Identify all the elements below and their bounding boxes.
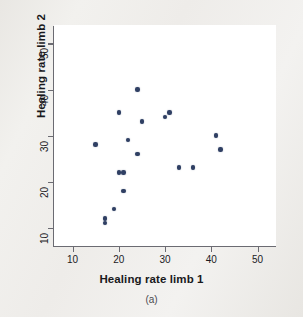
- data-point: [191, 165, 196, 170]
- data-point: [177, 165, 182, 170]
- data-point: [214, 133, 219, 138]
- y-tick-label-10: 10: [39, 227, 50, 249]
- data-point: [218, 147, 223, 152]
- data-point: [135, 87, 140, 92]
- plot-area: [54, 25, 276, 246]
- x-tick-30: [165, 247, 166, 252]
- x-tick-label-30: 30: [154, 254, 176, 265]
- x-tick-label-20: 20: [108, 254, 130, 265]
- x-tick-50: [258, 247, 259, 252]
- x-tick-40: [211, 247, 212, 252]
- x-tick-10: [73, 247, 74, 252]
- data-point: [93, 142, 98, 147]
- y-axis-title: Healing rate limb 2: [35, 0, 47, 151]
- x-tick-20: [119, 247, 120, 252]
- data-point: [117, 110, 122, 115]
- scatter-plot: 10203040501020304050 Healing rate limb 2…: [0, 0, 303, 317]
- x-tick-label-10: 10: [62, 254, 84, 265]
- y-axis-line: [53, 26, 54, 247]
- x-tick-label-50: 50: [247, 254, 269, 265]
- data-point: [135, 152, 140, 157]
- data-point: [103, 216, 108, 221]
- data-point: [121, 170, 126, 175]
- y-tick-label-20: 20: [39, 181, 50, 203]
- data-point: [140, 119, 145, 124]
- x-axis-title: Healing rate limb 1: [0, 273, 303, 285]
- data-point: [121, 189, 126, 194]
- figure-panel: 10203040501020304050 Healing rate limb 2…: [0, 0, 303, 317]
- data-point: [167, 110, 172, 115]
- figure-caption: (a): [0, 294, 303, 305]
- x-tick-label-40: 40: [200, 254, 222, 265]
